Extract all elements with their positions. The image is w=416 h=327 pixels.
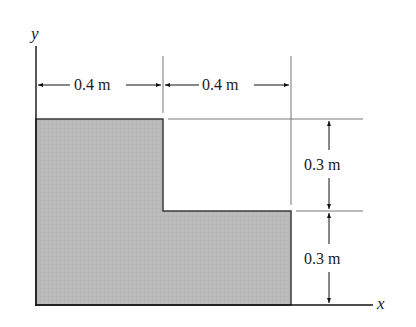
svg-text:0.4 m: 0.4 m [202, 76, 239, 93]
x-axis-label: x [376, 294, 385, 313]
dimension-top-right: 0.4 m [165, 76, 289, 93]
svg-text:0.3 m: 0.3 m [304, 156, 341, 173]
svg-text:0.4 m: 0.4 m [74, 76, 111, 93]
l-shape-area [36, 119, 291, 305]
l-shape-diagram: y x 0.4 m 0.4 m 0.3 m 0.3 [0, 0, 416, 327]
svg-text:0.3 m: 0.3 m [304, 250, 341, 267]
dimension-top-left: 0.4 m [38, 76, 161, 93]
dimension-right-lower: 0.3 m [304, 213, 341, 303]
y-axis-label: y [29, 24, 39, 43]
dimension-right-upper: 0.3 m [304, 121, 341, 209]
